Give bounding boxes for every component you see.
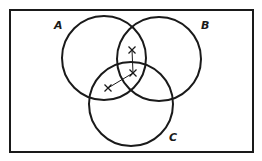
set-label-a: A bbox=[53, 19, 63, 32]
point-link-line bbox=[132, 50, 133, 73]
set-circle-b bbox=[117, 17, 201, 101]
set-circle-a bbox=[62, 16, 146, 100]
x-mark-icon bbox=[105, 85, 112, 92]
venn-diagram: ABC bbox=[0, 0, 262, 161]
set-label-c: C bbox=[169, 131, 177, 144]
point-links bbox=[108, 50, 133, 88]
set-labels: ABC bbox=[53, 19, 209, 144]
set-circles bbox=[62, 16, 201, 146]
universe-rectangle bbox=[10, 10, 253, 152]
set-label-b: B bbox=[201, 19, 209, 32]
